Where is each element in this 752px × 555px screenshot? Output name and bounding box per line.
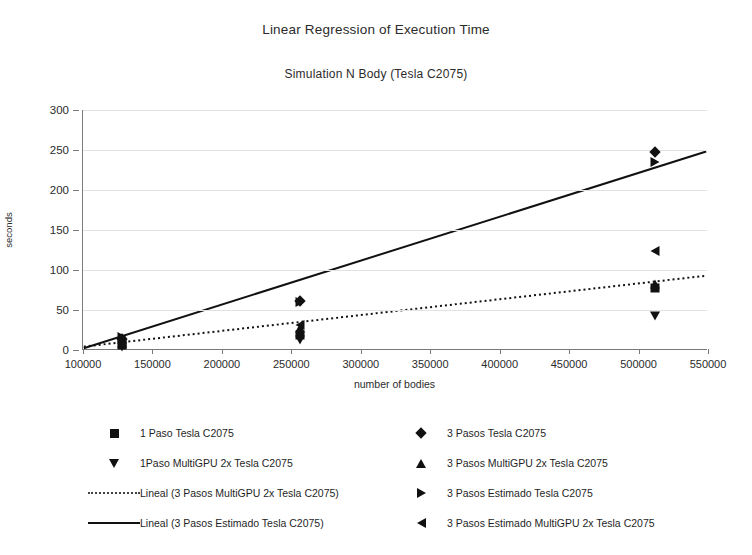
y-axis-tick-label: 300 (50, 104, 69, 116)
triangle-right-glyph-icon (417, 488, 426, 498)
chart-legend: 1 Paso Tesla C20751Paso MultiGPU 2x Tesl… (88, 418, 728, 548)
plot-area-wrapper: seconds 05010015020025030010000015000020… (0, 0, 752, 420)
square-glyph-icon (110, 429, 119, 438)
y-gridline (83, 190, 707, 191)
trendline-solid (84, 151, 706, 348)
legend-item-label: 1 Paso Tesla C2075 (140, 427, 234, 439)
y-axis-tick (73, 270, 79, 271)
x-axis-title: number of bodies (82, 378, 707, 390)
y-axis-tick (73, 310, 79, 311)
y-axis-tick-label: 0 (63, 344, 69, 356)
diamond-glyph-icon (415, 427, 426, 438)
data-point-triangle-right (295, 297, 304, 307)
legend-item[interactable]: 3 Pasos Tesla C2075 (395, 418, 705, 448)
data-point-triangle-left (295, 320, 304, 330)
legend-marker-triangle-left-icon (395, 508, 447, 538)
x-axis-tick-label: 250000 (273, 358, 310, 370)
plot-area: 0501001502002503001000001500002000002500… (82, 110, 707, 350)
data-point-triangle-down (650, 312, 660, 321)
legend-item[interactable]: 1Paso MultiGPU 2x Tesla C2075 (88, 448, 398, 478)
x-axis-tick-label: 500000 (620, 358, 657, 370)
legend-item-label: 3 Pasos Tesla C2075 (447, 427, 546, 439)
legend-marker-triangle-right-icon (395, 478, 447, 508)
x-axis-tick (222, 349, 223, 354)
x-axis-tick (569, 349, 570, 354)
legend-marker-square-icon (88, 418, 140, 448)
x-axis-tick-label: 300000 (342, 358, 379, 370)
data-point-triangle-left (651, 246, 660, 256)
data-point-triangle-up (650, 280, 660, 289)
legend-marker-line-solid-icon (88, 508, 140, 538)
legend-item[interactable]: Lineal (3 Pasos MultiGPU 2x Tesla C2075) (88, 478, 398, 508)
y-axis-tick-label: 200 (50, 184, 69, 196)
y-axis-tick-label: 250 (50, 144, 69, 156)
legend-item-label: Lineal (3 Pasos Estimado Tesla C2075) (140, 517, 324, 529)
x-axis-tick (708, 349, 709, 354)
solid-line-swatch (88, 522, 140, 524)
y-axis-tick (73, 150, 79, 151)
legend-marker-triangle-down-icon (88, 448, 140, 478)
y-gridline (83, 230, 707, 231)
y-axis-tick (73, 350, 79, 351)
y-axis-tick (73, 190, 79, 191)
legend-marker-line-dotted-icon (88, 478, 140, 508)
legend-column-left: 1 Paso Tesla C20751Paso MultiGPU 2x Tesl… (88, 418, 398, 538)
x-axis-tick (361, 349, 362, 354)
triangle-left-glyph-icon (417, 518, 426, 528)
triangle-up-glyph-icon (416, 459, 426, 468)
x-axis-tick-label: 450000 (551, 358, 588, 370)
y-gridline (83, 270, 707, 271)
x-axis-tick (500, 349, 501, 354)
chart-page: Linear Regression of Execution Time Simu… (0, 0, 752, 555)
y-gridline (83, 110, 707, 111)
x-axis-tick (152, 349, 153, 354)
legend-item[interactable]: 3 Pasos Estimado Tesla C2075 (395, 478, 705, 508)
x-axis-tick-label: 400000 (481, 358, 518, 370)
y-gridline (83, 310, 707, 311)
y-axis-tick (73, 230, 79, 231)
triangle-down-glyph-icon (109, 459, 119, 468)
x-axis-tick (83, 349, 84, 354)
y-axis-tick-label: 150 (50, 224, 69, 236)
legend-item[interactable]: 1 Paso Tesla C2075 (88, 418, 398, 448)
data-point-triangle-right (651, 157, 660, 167)
trendline-dotted (84, 276, 706, 347)
legend-item-label: Lineal (3 Pasos MultiGPU 2x Tesla C2075) (140, 487, 339, 499)
y-gridline (83, 150, 707, 151)
legend-item-label: 3 Pasos Estimado Tesla C2075 (447, 487, 593, 499)
legend-column-right: 3 Pasos Tesla C20753 Pasos MultiGPU 2x T… (395, 418, 705, 538)
legend-item-label: 3 Pasos MultiGPU 2x Tesla C2075 (447, 457, 608, 469)
dotted-line-swatch (88, 492, 140, 494)
legend-marker-diamond-icon (395, 418, 447, 448)
data-point-triangle-left (117, 339, 126, 349)
legend-item[interactable]: Lineal (3 Pasos Estimado Tesla C2075) (88, 508, 398, 538)
y-axis-title: seconds (3, 212, 14, 247)
x-axis-tick-label: 100000 (65, 358, 102, 370)
y-axis-tick (73, 110, 79, 111)
legend-marker-triangle-up-icon (395, 448, 447, 478)
legend-item[interactable]: 3 Pasos Estimado MultiGPU 2x Tesla C2075 (395, 508, 705, 538)
y-axis-tick-label: 50 (56, 304, 69, 316)
x-axis-tick-label: 150000 (134, 358, 171, 370)
x-axis-tick (639, 349, 640, 354)
x-axis-tick-label: 350000 (412, 358, 449, 370)
legend-item-label: 3 Pasos Estimado MultiGPU 2x Tesla C2075 (447, 517, 655, 529)
x-axis-tick (291, 349, 292, 354)
x-axis-tick-label: 550000 (690, 358, 727, 370)
data-point-triangle-down (295, 336, 305, 345)
x-axis-tick-label: 200000 (204, 358, 241, 370)
legend-item[interactable]: 3 Pasos MultiGPU 2x Tesla C2075 (395, 448, 705, 478)
y-axis-tick-label: 100 (50, 264, 69, 276)
x-axis-tick (430, 349, 431, 354)
legend-item-label: 1Paso MultiGPU 2x Tesla C2075 (140, 457, 293, 469)
